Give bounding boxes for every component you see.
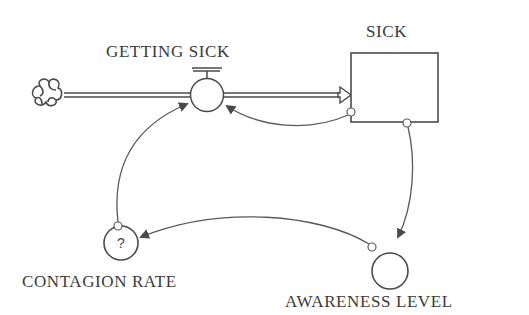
link-origin-circle: [368, 243, 376, 251]
stock-label: SICK: [366, 23, 407, 40]
link-origin-circle: [403, 119, 411, 127]
cloud-icon: [33, 79, 62, 106]
unknown-value-icon: ?: [117, 236, 125, 250]
link-contagion-to-getting-sick: [117, 104, 187, 222]
link-sick-to-awareness: [398, 127, 413, 237]
contagion-rate-label: CONTAGION RATE: [22, 273, 177, 290]
valve-icon: [191, 68, 224, 112]
link-awareness-to-contagion: [141, 217, 369, 244]
flow-arrowhead: [338, 87, 351, 103]
stock-flow-diagram: GETTING SICK SICK CONTAGION RATE AWARENE…: [0, 0, 529, 315]
link-origin-circle: [114, 222, 122, 230]
link-origin-circle: [347, 108, 355, 116]
link-sick-to-getting-sick: [227, 106, 348, 126]
awareness-level-node: [372, 253, 408, 289]
flow-label: GETTING SICK: [106, 43, 230, 60]
diagram-graphics: [0, 0, 529, 315]
awareness-level-label: AWARENESS LEVEL: [285, 293, 453, 310]
stock-box: [351, 53, 438, 122]
